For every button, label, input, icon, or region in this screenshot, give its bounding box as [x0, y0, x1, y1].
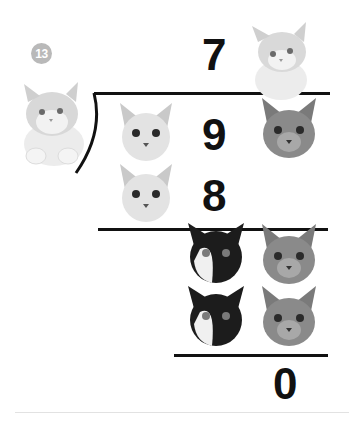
product-digit: 8 — [202, 174, 226, 218]
siamese-cat-icon — [114, 160, 178, 224]
dividend-digit: 9 — [202, 113, 226, 157]
quotient-digit: 7 — [202, 33, 226, 77]
division-bracket — [70, 88, 100, 178]
remainder-digit: 0 — [273, 362, 297, 406]
tuxedo-cat-icon — [184, 284, 248, 350]
remainder-line — [174, 354, 328, 357]
tabby-cat-icon — [256, 96, 322, 162]
bottom-separator — [15, 412, 349, 413]
problem-number-badge: 13 — [31, 43, 52, 64]
quotient-kitten-icon — [248, 20, 314, 100]
tabby-cat-icon — [256, 284, 322, 350]
siamese-cat-icon — [114, 99, 178, 163]
tuxedo-cat-icon — [184, 221, 248, 287]
tabby-cat-icon — [256, 222, 322, 288]
